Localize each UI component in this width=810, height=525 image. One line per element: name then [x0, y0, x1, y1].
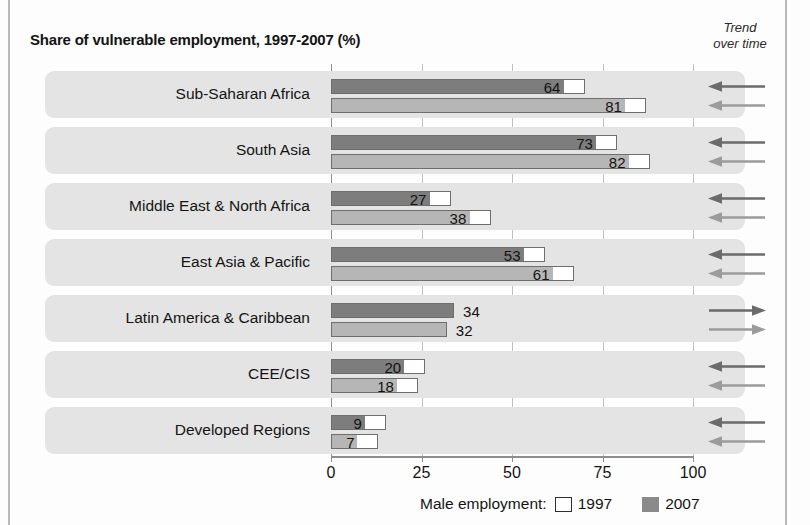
legend-label-1997: 1997	[578, 495, 612, 513]
category-label: South Asia	[60, 141, 310, 159]
bar-tail	[357, 435, 377, 448]
trend-arrow-left-icon	[708, 380, 766, 391]
plot-area: Sub-Saharan Africa6481South Asia7382Midd…	[0, 64, 785, 456]
trend-arrow-left-icon	[708, 193, 766, 204]
trend-arrow-left-icon	[708, 268, 766, 279]
bar-1997	[331, 378, 418, 393]
frame-rule-right	[785, 0, 787, 525]
category-label: Developed Regions	[60, 421, 310, 439]
trend-arrow-right-icon	[708, 324, 766, 335]
bar-value-label: 38	[450, 211, 467, 226]
trend-arrow-left-icon	[708, 100, 766, 111]
bar-tail	[564, 80, 584, 93]
legend-swatch-2007-icon	[642, 497, 659, 512]
bar-2007	[331, 191, 451, 206]
bar-fill	[332, 80, 564, 93]
bar-fill	[332, 304, 453, 317]
bar-value-label: 20	[384, 360, 401, 375]
trend-arrow-left-icon	[708, 249, 766, 260]
trend-arrow-right-icon	[708, 305, 766, 316]
legend-swatch-1997-icon	[555, 497, 572, 512]
bar-value-label: 64	[544, 80, 561, 95]
trend-arrow-left-icon	[708, 212, 766, 223]
trend-column-header: Trend over time	[702, 20, 778, 52]
bar-2007	[331, 359, 425, 374]
bar-value-label: 32	[456, 323, 473, 338]
axis-tick-label: 25	[392, 464, 452, 482]
chart-page: Share of vulnerable employment, 1997-200…	[0, 0, 810, 525]
axis-tick	[603, 456, 604, 462]
axis-tick	[331, 456, 332, 462]
bar-value-label: 73	[576, 136, 593, 151]
trend-arrow-left-icon	[708, 156, 766, 167]
axis-tick	[512, 456, 513, 462]
trend-header-line2: over time	[702, 36, 778, 52]
chart-legend: Male employment: 1997 2007	[420, 495, 700, 513]
trend-arrow-left-icon	[708, 361, 766, 372]
bar-fill	[332, 155, 629, 168]
trend-arrow-left-icon	[708, 81, 766, 92]
bar-1997	[331, 322, 447, 337]
trend-header-line1: Trend	[702, 20, 778, 36]
bar-tail	[397, 379, 417, 392]
bar-tail	[629, 155, 649, 168]
bar-tail	[404, 360, 424, 373]
bar-fill	[332, 267, 553, 280]
bar-1997	[331, 154, 650, 169]
bar-tail	[470, 211, 490, 224]
axis-tick-label: 100	[663, 464, 723, 482]
bar-1997	[331, 210, 491, 225]
trend-arrow-left-icon	[708, 417, 766, 428]
axis-tick	[422, 456, 423, 462]
bar-value-label: 53	[504, 248, 521, 263]
bar-fill	[332, 136, 596, 149]
bar-value-label: 27	[410, 192, 427, 207]
axis-tick	[693, 456, 694, 462]
bar-tail	[524, 248, 544, 261]
category-label: Middle East & North Africa	[60, 197, 310, 215]
legend-item-2007: 2007	[642, 495, 699, 513]
legend-label-2007: 2007	[665, 495, 699, 513]
bar-value-label: 7	[346, 435, 354, 450]
legend-item-1997: 1997	[555, 495, 612, 513]
bar-fill	[332, 248, 524, 261]
bar-tail	[625, 99, 645, 112]
category-label: Sub-Saharan Africa	[60, 85, 310, 103]
bar-value-label: 34	[463, 304, 480, 319]
bar-fill	[332, 99, 625, 112]
bar-tail	[365, 416, 385, 429]
bar-tail	[430, 192, 450, 205]
axis-tick-label: 0	[301, 464, 361, 482]
legend-prefix: Male employment:	[420, 495, 547, 513]
trend-arrow-left-icon	[708, 137, 766, 148]
bar-1997	[331, 98, 646, 113]
bar-tail	[553, 267, 573, 280]
trend-arrow-left-icon	[708, 436, 766, 447]
bar-2007	[331, 303, 454, 318]
category-label: CEE/CIS	[60, 365, 310, 383]
bar-value-label: 18	[377, 379, 394, 394]
category-label: Latin America & Caribbean	[60, 309, 310, 327]
bar-value-label: 81	[605, 99, 622, 114]
bar-2007	[331, 135, 617, 150]
bar-value-label: 9	[354, 416, 362, 431]
bar-fill	[332, 323, 446, 336]
page-title: Share of vulnerable employment, 1997-200…	[30, 31, 360, 48]
axis-tick-label: 50	[482, 464, 542, 482]
axis-tick-label: 75	[573, 464, 633, 482]
category-label: East Asia & Pacific	[60, 253, 310, 271]
bar-value-label: 82	[609, 155, 626, 170]
bar-tail	[596, 136, 616, 149]
bar-value-label: 61	[533, 267, 550, 282]
